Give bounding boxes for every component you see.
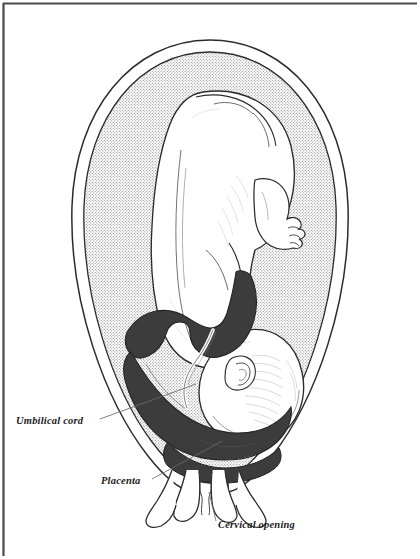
- label-cervical-opening: Cervical opening: [218, 519, 295, 530]
- illustration-page: Umbilical cord Placenta Cervical opening: [0, 0, 420, 559]
- label-umbilical-cord: Umbilical cord: [16, 415, 84, 426]
- fetus-in-utero-illustration: Umbilical cord Placenta Cervical opening: [0, 0, 420, 559]
- label-placenta: Placenta: [101, 475, 141, 486]
